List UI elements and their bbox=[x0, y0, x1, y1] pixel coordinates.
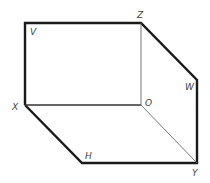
label-v: V bbox=[30, 27, 37, 37]
label-w: W bbox=[185, 82, 195, 92]
diagram-canvas: V Z W Y H X O bbox=[0, 0, 210, 183]
outline-edge bbox=[25, 23, 197, 163]
label-h: H bbox=[85, 151, 92, 161]
edge-o-y bbox=[141, 105, 197, 163]
label-x: X bbox=[11, 102, 19, 112]
label-y: Y bbox=[192, 168, 199, 178]
label-z: Z bbox=[136, 10, 144, 20]
label-o: O bbox=[145, 98, 152, 108]
